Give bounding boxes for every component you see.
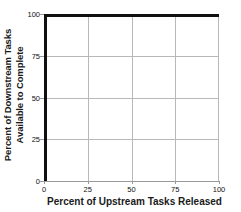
x-tick-label-25: 25	[84, 185, 92, 194]
y-tick-label-25: 25	[32, 135, 40, 144]
x-tick-label-50: 50	[127, 185, 135, 194]
x-tick-mark-50	[132, 181, 133, 184]
x-tick-mark-0	[44, 181, 45, 184]
y-axis-title-line-1: Percent of Downstream Tasks	[2, 29, 14, 161]
x-tick-mark-75	[175, 181, 176, 184]
x-tick-mark-25	[88, 181, 89, 184]
series-segment-horizontal	[44, 14, 219, 17]
x-tick-label-100: 100	[213, 185, 226, 194]
y-axis-tick-labels: 100 75 50 25 0	[24, 0, 40, 190]
x-tick-mark-100	[219, 181, 220, 184]
gridline-y-25	[44, 139, 219, 140]
gridline-y-75	[44, 56, 219, 57]
series-segment-vertical	[44, 14, 47, 181]
x-tick-label-0: 0	[42, 185, 46, 194]
plot-area	[44, 14, 219, 181]
y-tick-label-50: 50	[32, 93, 40, 102]
gridline-y-50	[44, 98, 219, 99]
x-axis-title: Percent of Upstream Tasks Released	[28, 196, 241, 207]
x-tick-label-75: 75	[171, 185, 179, 194]
y-tick-label-75: 75	[32, 51, 40, 60]
y-tick-label-100: 100	[27, 10, 40, 19]
chart-container: Percent of Downstream Tasks Available to…	[0, 0, 241, 212]
